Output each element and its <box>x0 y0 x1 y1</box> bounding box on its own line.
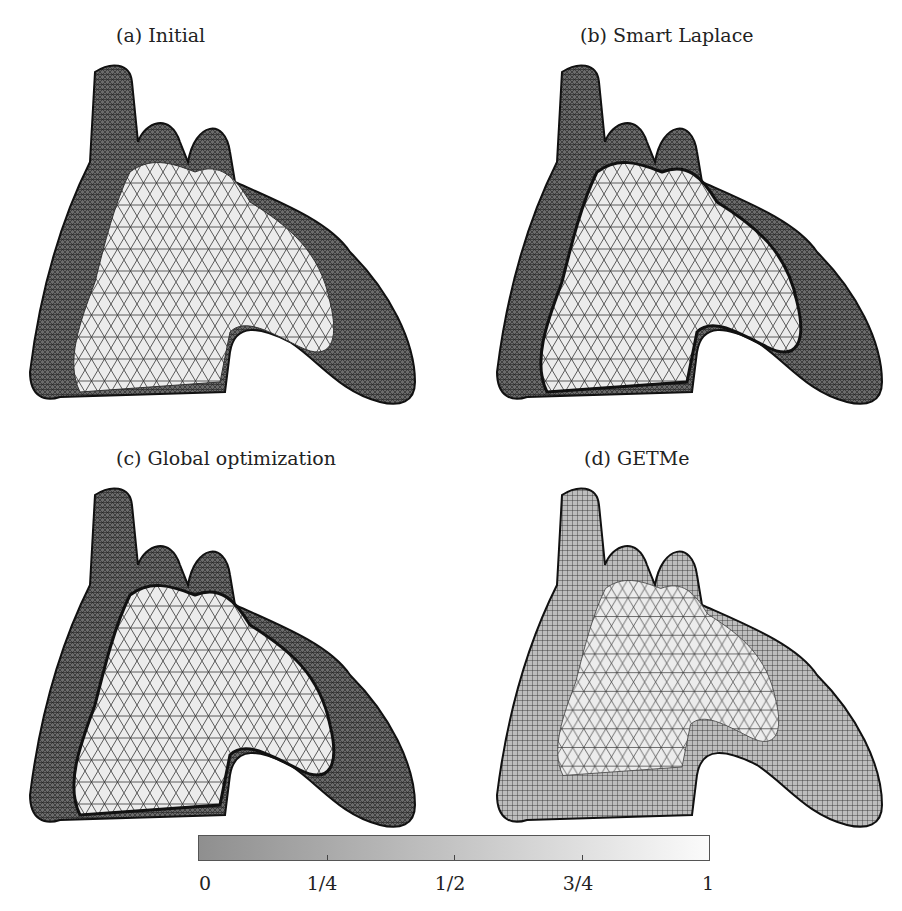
panel-a-mesh <box>20 62 430 412</box>
panel-c-mesh <box>20 485 430 835</box>
quality-colorbar <box>198 835 710 861</box>
panel-d-title: (d) GETMe <box>584 447 689 469</box>
colorbar-label-0: 0 <box>199 872 211 894</box>
colorbar-label-4: 1 <box>702 872 714 894</box>
colorbar-label-1: 1/4 <box>307 872 338 894</box>
panel-b-title: (b) Smart Laplace <box>580 24 754 46</box>
panel-a-title: (a) Initial <box>116 24 205 46</box>
panel-d-mesh <box>487 485 897 835</box>
colorbar-label-2: 1/2 <box>435 872 466 894</box>
colorbar-tick <box>582 855 583 860</box>
colorbar-tick <box>327 855 328 860</box>
colorbar-tick <box>454 855 455 860</box>
panel-b-mesh <box>487 62 897 412</box>
colorbar-label-3: 3/4 <box>563 872 594 894</box>
panel-c-title: (c) Global optimization <box>116 447 336 469</box>
